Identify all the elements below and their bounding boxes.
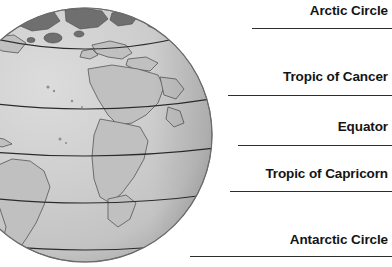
leader-line-arctic-circle [252, 28, 392, 29]
globe-latitudes-figure: Arctic Circle Tropic of Cancer Equator T… [0, 0, 392, 267]
leader-line-antarctic-circle [190, 256, 392, 257]
label-antarctic-circle: Antarctic Circle [290, 233, 388, 247]
label-tropic-of-capricorn: Tropic of Capricorn [265, 167, 388, 181]
leader-line-equator [238, 145, 392, 146]
globe-illustration [0, 7, 238, 263]
label-equator: Equator [338, 120, 388, 134]
label-tropic-of-cancer: Tropic of Cancer [283, 70, 388, 84]
globe-svg [0, 7, 238, 263]
label-arctic-circle: Arctic Circle [310, 4, 388, 18]
leader-line-tropic-of-capricorn [230, 191, 392, 192]
leader-line-tropic-of-cancer [228, 95, 392, 96]
globe-limb-shadow [0, 7, 238, 263]
